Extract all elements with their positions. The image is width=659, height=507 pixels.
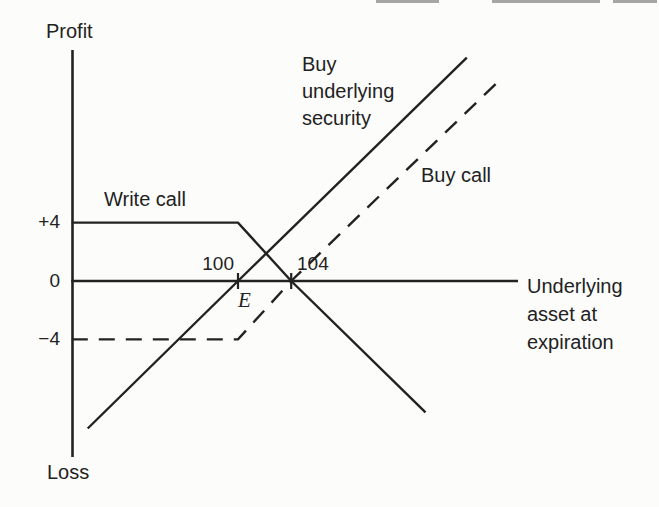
figure-canvas: Profit Loss +4 0 −4 100 104 E Write call…: [0, 0, 659, 507]
series-label-line: Buy: [302, 51, 394, 78]
y-tick-label-plus4: +4: [14, 210, 60, 233]
y-axis-top-label: Profit: [46, 20, 93, 43]
series-label-write-call: Write call: [104, 188, 186, 211]
x-axis-label-line: asset at: [527, 300, 623, 328]
x-axis-label: Underlying asset at expiration: [527, 272, 623, 356]
y-tick-label-minus4: −4: [14, 327, 60, 350]
exercise-price-label: E: [238, 289, 251, 312]
x-tick-label-104: 104: [297, 252, 329, 275]
x-axis-label-line: Underlying: [527, 272, 623, 300]
y-axis-bottom-label: Loss: [47, 461, 89, 484]
x-tick-label-100: 100: [180, 252, 234, 275]
y-tick-label-zero: 0: [14, 269, 60, 292]
series-line-write-call: [72, 223, 426, 413]
x-axis-label-line: expiration: [527, 328, 623, 356]
series-label-line: underlying: [302, 78, 394, 105]
series-label-buy-underlying-security: Buy underlying security: [302, 51, 394, 132]
series-label-buy-call: Buy call: [421, 164, 491, 187]
series-line-buy-underlying-security: [88, 58, 467, 429]
series-label-line: security: [302, 105, 394, 132]
